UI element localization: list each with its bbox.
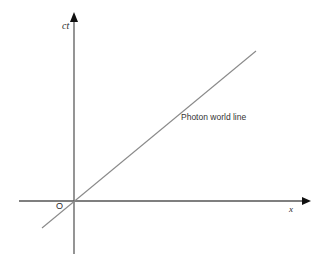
ct-axis-arrowhead-icon: [70, 12, 78, 22]
origin-label: O: [56, 201, 63, 211]
ct-axis-label: ct: [62, 20, 69, 31]
x-axis-arrowhead-icon: [302, 197, 311, 205]
spacetime-diagram: [0, 0, 316, 268]
photon-world-line-label: Photon world line: [181, 112, 246, 122]
x-axis-label: x: [289, 204, 293, 214]
